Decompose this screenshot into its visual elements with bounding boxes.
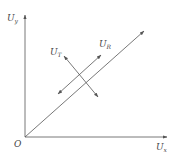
y-axis-label: Uy [7, 13, 19, 25]
u-r-label: UR [99, 39, 112, 50]
diagonal-vector [25, 31, 144, 137]
x-axis-label: Ux [156, 142, 168, 153]
diagram-svg: Uy Ux O UR UT [0, 0, 179, 163]
origin-label: O [14, 139, 22, 149]
u-t-label: UT [50, 47, 63, 58]
vector-diagram: Uy Ux O UR UT [0, 0, 179, 163]
